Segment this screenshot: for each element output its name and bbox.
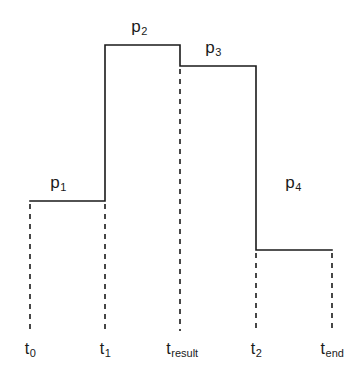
segment-label-p1: p1 [50,173,66,193]
dashed-drop-lines-group [30,69,332,331]
step-line-group [30,45,332,250]
segment-label-p3: p3 [205,38,221,58]
time-axis-label-tresult: tresult [166,340,197,358]
time-axis-label-t0: t0 [25,340,36,358]
segment-label-p2: p2 [131,17,147,37]
time-axis-label-t1: t1 [100,340,111,358]
segment-label-p4: p4 [285,173,301,193]
step-function-figure: p1 p2 p3 p4 t0 t1 tresult t2 tend [0,0,362,376]
time-axis-label-tend: tend [321,340,344,358]
time-axis-label-t2: t2 [251,340,262,358]
step-function-path [30,45,332,250]
